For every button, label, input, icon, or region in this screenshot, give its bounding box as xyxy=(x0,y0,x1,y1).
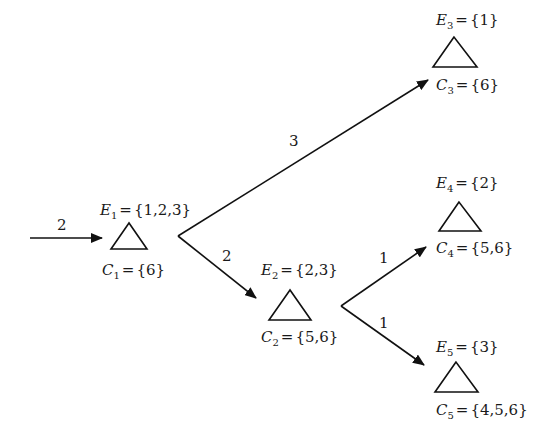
triangle-icon xyxy=(111,223,147,249)
triangle-icon xyxy=(433,37,477,67)
node-3-c-label: C3={6} xyxy=(436,76,499,96)
node-1: E1={1,2,3} C1={6} xyxy=(99,201,191,281)
edge-label: 3 xyxy=(289,132,299,150)
node-5-e-label: E5={3} xyxy=(435,338,499,358)
edge-label: 2 xyxy=(222,247,232,265)
node-1-c-label: C1={6} xyxy=(102,261,165,281)
node-2: E2={2,3} C2={5,6} xyxy=(260,261,338,348)
triangle-icon xyxy=(269,290,311,320)
node-3-e-label: E3={1} xyxy=(435,11,499,31)
node-1-e-label: E1={1,2,3} xyxy=(99,201,191,221)
triangle-icon xyxy=(435,362,478,392)
edge-n2-n5: 1 xyxy=(341,306,424,365)
node-3: E3={1} C3={6} xyxy=(433,11,499,96)
node-4-c-label: C4={5,6} xyxy=(436,239,513,259)
node-5: E5={3} C5={4,5,6} xyxy=(435,338,528,421)
tree-diagram: 2 3 2 1 1 E1={1,2,3} C1={6} E2={2,3} C2=… xyxy=(0,0,537,442)
node-2-e-label: E2={2,3} xyxy=(260,261,338,281)
edge-label: 1 xyxy=(379,314,389,332)
edge-label: 1 xyxy=(379,249,389,267)
node-4-e-label: E4={2} xyxy=(435,174,499,194)
input-edge-label: 2 xyxy=(57,216,67,234)
edge-n1-n2: 2 xyxy=(178,236,256,298)
node-5-c-label: C5={4,5,6} xyxy=(436,401,528,421)
edge-n1-n3: 3 xyxy=(178,80,428,236)
triangle-icon xyxy=(439,202,481,231)
node-2-c-label: C2={5,6} xyxy=(261,328,338,348)
node-4: E4={2} C4={5,6} xyxy=(435,174,513,259)
edge-n2-n4: 1 xyxy=(341,247,426,306)
input-edge: 2 xyxy=(30,216,102,238)
